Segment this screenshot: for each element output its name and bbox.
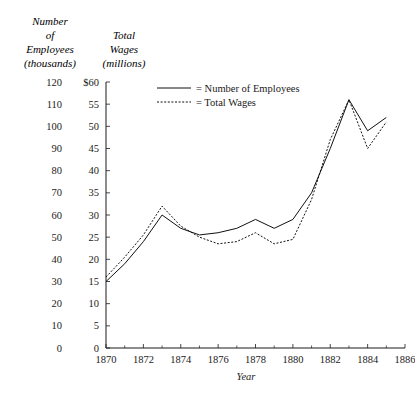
left-axis-title: Number of Employees (thousands) xyxy=(8,14,92,70)
x-axis-ticks xyxy=(106,344,405,348)
y2-axis-tick-label: 15 xyxy=(89,276,100,287)
y2-axis-tick-label: 45 xyxy=(89,143,100,154)
right-axis-title-line-3: (millions) xyxy=(94,56,154,70)
y-axis-tick-label: 10 xyxy=(52,320,63,331)
legend-label: = Total Wages xyxy=(196,97,256,108)
y-axis-tick-label: 40 xyxy=(52,254,63,265)
y2-axis-tick-label: 5 xyxy=(94,320,99,331)
x-axis-tick-label: 1882 xyxy=(320,354,341,365)
left-axis-title-line-4: (thousands) xyxy=(8,56,92,70)
y2-axis-tick-label: 40 xyxy=(89,165,100,176)
y2-axis-tick-label: 50 xyxy=(89,121,100,132)
right-axis-title-line-2: Wages xyxy=(94,42,154,56)
x-axis-tick-label: 1878 xyxy=(245,354,266,365)
y-axis-tick-label: 60 xyxy=(52,210,63,221)
right-axis-title: Total Wages (millions) xyxy=(94,28,154,70)
y2-axis-tick-label: 55 xyxy=(89,99,100,110)
x-axis-tick-label: 1872 xyxy=(133,354,154,365)
y-axis-tick-label: 80 xyxy=(52,165,63,176)
chart-figure: Number of Employees (thousands) Total Wa… xyxy=(0,0,415,399)
data-series-group xyxy=(106,100,386,282)
y-axis-tick-label: 50 xyxy=(52,232,63,243)
x-axis-tick-label: 1876 xyxy=(208,354,229,365)
y-axis-tick-label: 0 xyxy=(57,343,62,354)
chart-legend: = Number of Employees= Total Wages xyxy=(157,83,300,108)
y-axis-tick-label: 70 xyxy=(52,187,63,198)
y-axis-tick-label: 90 xyxy=(52,143,63,154)
x-axis-title: Year xyxy=(237,371,257,382)
series-line-total-wages xyxy=(106,100,386,277)
y2-axis-tick-label: 25 xyxy=(89,232,100,243)
y2-axis-tick-label: 20 xyxy=(89,254,100,265)
y2-axis-tick-label: 30 xyxy=(89,210,100,221)
y-axis-tick-label: 110 xyxy=(47,99,62,110)
y-axis-tick-label: 20 xyxy=(52,298,63,309)
x-axis-tick-label: 1874 xyxy=(170,354,192,365)
left-axis-title-line-3: Employees xyxy=(8,42,92,56)
y-axis-ticks xyxy=(106,82,110,348)
x-axis-tick-label: 1870 xyxy=(96,354,117,365)
y2-axis-tick-label: 0 xyxy=(94,343,99,354)
x-axis-tick-label: 1880 xyxy=(282,354,303,365)
y-axis-tick-label: 100 xyxy=(46,121,62,132)
legend-label: = Number of Employees xyxy=(196,83,300,94)
x-axis-tick-labels: 187018721874187618781880188218841886 xyxy=(96,354,415,365)
y-axis-tick-labels: 0102030405060708090100110120 xyxy=(46,77,62,354)
right-axis-title-line-1: Total xyxy=(94,28,154,42)
y2-axis-tick-label: $60 xyxy=(83,77,99,88)
series-line-number-of-employees xyxy=(106,100,386,282)
y-axis-tick-label: 30 xyxy=(52,276,63,287)
x-axis-tick-label: 1886 xyxy=(395,354,415,365)
left-axis-title-line-2: of xyxy=(8,28,92,42)
x-axis-tick-label: 1884 xyxy=(357,354,379,365)
y2-axis-tick-label: 10 xyxy=(89,298,100,309)
y2-axis-tick-label: 35 xyxy=(89,187,100,198)
y-axis-tick-label: 120 xyxy=(46,77,62,88)
y2-axis-tick-labels: 0510152025303540455055$60 xyxy=(83,77,99,354)
left-axis-title-line-1: Number xyxy=(8,14,92,28)
